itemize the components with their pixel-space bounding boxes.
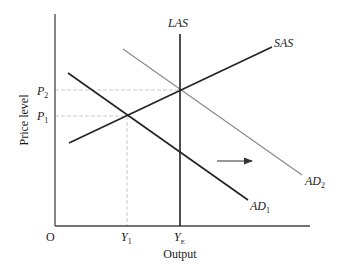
x-axis-title: Output bbox=[163, 247, 197, 261]
ad2-label: AD2 bbox=[304, 174, 325, 190]
ad1-label-main: AD bbox=[249, 199, 266, 213]
ad1-curve bbox=[68, 73, 248, 200]
ye-label: YE bbox=[174, 230, 185, 246]
las-label: LAS bbox=[167, 16, 188, 30]
ad1-label-sub: 1 bbox=[266, 206, 270, 215]
y1-label-sub: 1 bbox=[128, 237, 132, 246]
ad2-curve bbox=[123, 49, 302, 175]
p2-label: P2 bbox=[36, 84, 48, 100]
ad1-label: AD1 bbox=[249, 199, 270, 215]
p1-label-sub: 1 bbox=[44, 116, 48, 125]
p1-label: P1 bbox=[36, 109, 48, 125]
ad2-label-sub: 2 bbox=[321, 181, 325, 190]
y1-label: Y1 bbox=[121, 230, 132, 246]
y-axis-title: Price level bbox=[17, 94, 31, 146]
origin-label: O bbox=[46, 230, 55, 244]
p2-label-sub: 2 bbox=[44, 91, 48, 100]
sas-label: SAS bbox=[274, 36, 293, 50]
ad-as-diagram: LAS SAS AD1 AD2 P2 P1 O Y1 YE Output Pri… bbox=[0, 0, 345, 273]
ye-label-sub: E bbox=[181, 238, 185, 246]
axes bbox=[55, 14, 310, 226]
ad2-label-main: AD bbox=[304, 174, 321, 188]
guide-lines bbox=[55, 90, 180, 226]
